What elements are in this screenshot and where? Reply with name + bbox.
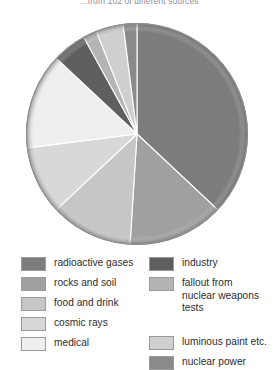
chart-title: ...from 102 of different sources	[0, 0, 279, 5]
legend-item[interactable]: food and drink	[21, 296, 143, 313]
legend-item[interactable]: nuclear power	[149, 355, 267, 370]
legend-item[interactable]: radioactive gases	[21, 256, 143, 273]
legend-item[interactable]: industry	[149, 256, 267, 273]
legend-item[interactable]: fallout from nuclear weapons tests	[149, 276, 267, 315]
legend-item[interactable]: rocks and soil	[21, 276, 143, 293]
legend-item[interactable]: cosmic rays	[21, 316, 143, 333]
pie-chart	[25, 22, 249, 248]
legend-swatch-nuclear-power	[149, 356, 174, 370]
legend-label: industry	[182, 256, 218, 270]
legend-label: food and drink	[54, 296, 119, 310]
legend-column-left: radioactive gases rocks and soil food an…	[21, 256, 143, 356]
legend-label: nuclear power	[182, 355, 246, 369]
legend-item[interactable]: luminous paint etc.	[149, 335, 267, 352]
legend-swatch-rocks-and-soil	[21, 277, 46, 291]
legend-swatch-medical	[21, 337, 46, 351]
legend-label: fallout from nuclear weapons tests	[182, 276, 267, 315]
legend-column-right: industry fallout from nuclear weapons te…	[149, 256, 267, 370]
legend-label: radioactive gases	[54, 256, 133, 270]
legend-swatch-radioactive-gases	[21, 257, 46, 271]
legend-label: cosmic rays	[54, 316, 108, 330]
legend-item[interactable]: medical	[21, 336, 143, 353]
legend-swatch-fallout-from-nuclear-weapons-tests	[149, 277, 174, 291]
legend-spacer	[149, 318, 267, 335]
legend-label: medical	[54, 336, 89, 350]
legend-label: luminous paint etc.	[182, 335, 267, 349]
legend-label: rocks and soil	[54, 276, 116, 290]
legend-swatch-food-and-drink	[21, 297, 46, 311]
legend: radioactive gases rocks and soil food an…	[21, 256, 265, 360]
pie-rim	[26, 23, 248, 245]
legend-swatch-cosmic-rays	[21, 317, 46, 331]
legend-swatch-industry	[149, 257, 174, 271]
pie-chart-svg	[25, 22, 249, 248]
legend-swatch-luminous-paint-etc	[149, 336, 174, 350]
